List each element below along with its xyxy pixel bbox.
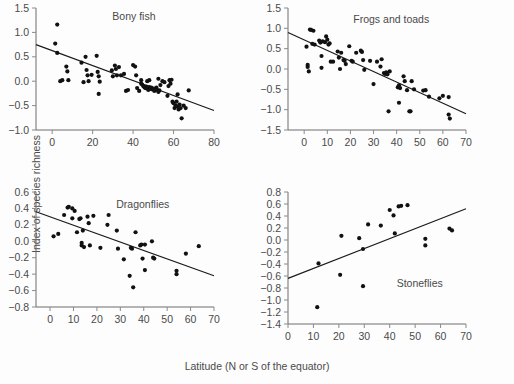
data-point — [338, 273, 342, 277]
data-point — [51, 234, 55, 238]
data-point — [405, 203, 409, 207]
data-point — [447, 112, 451, 116]
x-tick-label: 10 — [68, 313, 80, 325]
data-point — [403, 79, 407, 83]
data-point — [423, 243, 427, 247]
data-point — [152, 256, 156, 260]
axis-lines — [288, 192, 466, 324]
x-tick-label: 50 — [409, 330, 421, 342]
data-point — [98, 80, 102, 84]
data-point — [423, 88, 427, 92]
data-point — [362, 68, 366, 72]
data-point — [397, 101, 401, 105]
y-tick-label: −1.0 — [260, 294, 281, 306]
data-point — [398, 86, 402, 90]
x-tick-label: 20 — [87, 136, 99, 148]
panel-title: Stoneflies — [397, 277, 443, 289]
data-point — [184, 106, 188, 110]
data-point — [437, 96, 441, 100]
x-tick-label: 0 — [301, 136, 307, 148]
y-tick-label: 1.5 — [266, 2, 281, 14]
data-point — [447, 95, 451, 99]
y-tick-label: −0.5 — [260, 83, 281, 95]
data-point — [401, 74, 405, 78]
y-tick-label: −1.2 — [260, 306, 281, 318]
y-tick-label: 0.4 — [14, 202, 29, 214]
plot-svg: −1.5−1.0−0.50.00.51.01.5010203040506070F… — [288, 8, 478, 156]
data-point — [351, 60, 355, 64]
data-point — [81, 80, 85, 84]
data-point — [117, 65, 121, 69]
data-point — [388, 208, 392, 212]
data-point — [354, 51, 358, 55]
data-point — [187, 88, 191, 92]
data-point — [73, 209, 77, 213]
panel-stoneflies: −1.4−1.2−1.0−0.8−0.6−0.4−0.20.00.20.40.6… — [288, 192, 478, 350]
y-tick-label: −1.0 — [8, 124, 29, 136]
y-tick-label: 0.2 — [266, 222, 281, 234]
data-point — [450, 228, 454, 232]
data-point — [410, 79, 414, 83]
panel-title: Dragonflies — [116, 198, 169, 210]
data-point — [337, 56, 341, 60]
data-point — [316, 261, 320, 265]
data-point — [157, 88, 161, 92]
data-point — [307, 69, 311, 73]
y-tick-label: −0.4 — [8, 268, 29, 280]
data-point — [393, 231, 397, 235]
data-point — [174, 100, 178, 104]
axis-lines — [288, 8, 466, 130]
data-point — [156, 77, 160, 81]
data-point — [134, 73, 138, 77]
data-point — [98, 246, 102, 250]
y-tick-label: 1.0 — [266, 22, 281, 34]
data-point — [107, 213, 111, 217]
data-point — [95, 54, 99, 58]
panel-title: Bony fish — [112, 10, 155, 22]
x-axis-label: Latitude (N or S of the equator) — [0, 360, 514, 372]
regression-line — [36, 45, 214, 111]
y-tick-label: −0.2 — [260, 246, 281, 258]
data-point — [140, 256, 144, 260]
data-point — [344, 62, 348, 66]
data-point — [391, 213, 395, 217]
data-point — [86, 79, 90, 83]
y-tick-label: 0.4 — [266, 210, 281, 222]
x-tick-label: 50 — [161, 313, 173, 325]
data-point — [165, 94, 169, 98]
plot-svg: −1.4−1.2−1.0−0.8−0.6−0.4−0.20.00.20.40.6… — [288, 192, 478, 350]
x-tick-label: 20 — [345, 136, 357, 148]
y-tick-label: −1.4 — [260, 318, 281, 330]
y-tick-label: −0.8 — [260, 282, 281, 294]
data-point — [55, 22, 59, 26]
panel-frogs-and-toads: −1.5−1.0−0.50.00.51.01.5010203040506070F… — [288, 8, 478, 156]
x-tick-label: 30 — [368, 136, 380, 148]
regression-line — [36, 212, 214, 276]
data-point — [110, 68, 114, 72]
x-tick-label: 40 — [138, 313, 150, 325]
y-tick-label: 1.0 — [14, 26, 29, 38]
x-tick-label: 30 — [114, 313, 126, 325]
data-point — [126, 88, 130, 92]
data-point — [319, 66, 323, 70]
panel-bony-fish: −1.0−0.50.00.51.01.5020406080Bony fish — [36, 8, 226, 156]
data-point — [90, 73, 94, 77]
data-point — [85, 215, 89, 219]
x-tick-label: 40 — [391, 136, 403, 148]
data-point — [325, 38, 329, 42]
axis-lines — [36, 8, 214, 130]
data-point — [184, 252, 188, 256]
x-tick-label: 60 — [168, 136, 180, 148]
y-tick-label: 0.0 — [266, 63, 281, 75]
data-point — [338, 67, 342, 71]
y-tick-label: 0.6 — [266, 198, 281, 210]
x-tick-label: 0 — [285, 330, 291, 342]
data-point — [97, 92, 101, 96]
data-point — [174, 272, 178, 276]
regression-line — [288, 209, 466, 279]
data-point — [361, 247, 365, 251]
data-point — [399, 204, 403, 208]
data-point — [122, 257, 126, 261]
data-point — [97, 74, 101, 78]
data-point — [84, 68, 88, 72]
